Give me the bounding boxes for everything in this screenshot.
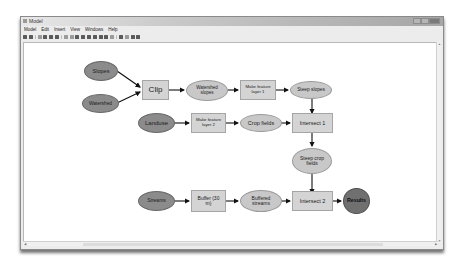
toolbar bbox=[23, 34, 142, 40]
node-label: Buffer (30 m) bbox=[197, 196, 220, 207]
model-canvas[interactable]: Slopes Watershed Clip Watershed slopes M… bbox=[23, 42, 438, 243]
node-label: Buffered streams bbox=[247, 196, 275, 207]
delete-icon[interactable] bbox=[55, 35, 59, 39]
node-label: Crop fields bbox=[248, 120, 274, 126]
add-data-icon[interactable] bbox=[75, 35, 79, 39]
menu-windows[interactable]: Windows bbox=[85, 27, 103, 33]
menu-edit[interactable]: Edit bbox=[41, 27, 49, 33]
redo-icon[interactable] bbox=[70, 35, 74, 39]
node-slopes[interactable]: Slopes bbox=[84, 61, 118, 81]
print-icon[interactable] bbox=[29, 35, 33, 39]
scroll-right-icon[interactable]: ▶ bbox=[435, 242, 437, 246]
node-label: Landuse bbox=[145, 120, 168, 127]
menu-view[interactable]: View bbox=[70, 27, 80, 33]
menu-bar: Model Edit Insert View Windows Help bbox=[21, 27, 123, 33]
toolbar-separator bbox=[116, 35, 117, 39]
scroll-left-icon[interactable]: ◀ bbox=[24, 242, 26, 246]
run-icon[interactable] bbox=[136, 35, 140, 39]
cut-icon[interactable] bbox=[38, 35, 42, 39]
pan-icon[interactable] bbox=[110, 35, 114, 39]
node-make-feature-layer-2[interactable]: Make feature layer 2 bbox=[191, 113, 226, 133]
save-icon[interactable] bbox=[23, 35, 27, 39]
vertical-scrollbar[interactable]: ▲ ▼ bbox=[436, 42, 441, 243]
app-icon bbox=[23, 19, 27, 23]
node-steep-slopes[interactable]: Steep slopes bbox=[290, 81, 332, 99]
node-label: Results bbox=[347, 198, 366, 204]
node-crop-fields[interactable]: Crop fields bbox=[240, 114, 282, 132]
select-icon[interactable] bbox=[119, 35, 123, 39]
node-label: Watershed bbox=[89, 101, 112, 106]
auto-layout-icon[interactable] bbox=[81, 35, 85, 39]
copy-icon[interactable] bbox=[43, 35, 47, 39]
validate-icon[interactable] bbox=[131, 35, 135, 39]
zoom-out-fixed-icon[interactable] bbox=[99, 35, 103, 39]
zoom-in-fixed-icon[interactable] bbox=[93, 35, 97, 39]
paste-icon[interactable] bbox=[49, 35, 53, 39]
node-label: Intersect 2 bbox=[300, 198, 326, 204]
node-label: Intersect 1 bbox=[300, 120, 326, 126]
menu-help[interactable]: Help bbox=[108, 27, 117, 33]
node-label: Streams bbox=[147, 198, 166, 204]
node-watershed-slopes[interactable]: Watershed slopes bbox=[186, 80, 228, 101]
node-watershed[interactable]: Watershed bbox=[82, 94, 119, 113]
connect-icon[interactable] bbox=[125, 35, 129, 39]
toolbar-separator bbox=[35, 35, 36, 39]
close-button[interactable] bbox=[429, 18, 440, 24]
node-intersect-1[interactable]: Intersect 1 bbox=[292, 113, 333, 133]
node-label: Make feature layer 1 bbox=[244, 85, 272, 94]
node-label: Steep slopes bbox=[297, 87, 325, 92]
node-label: Clip bbox=[149, 86, 163, 95]
node-results[interactable]: Results bbox=[343, 188, 370, 214]
zoom-icon[interactable] bbox=[104, 35, 108, 39]
maximize-button[interactable] bbox=[421, 18, 429, 24]
node-label: Make feature layer 2 bbox=[195, 118, 222, 127]
node-steep-crop-fields[interactable]: Steep crop fields bbox=[292, 148, 332, 174]
node-clip[interactable]: Clip bbox=[142, 80, 169, 100]
node-label: Slopes bbox=[93, 68, 110, 74]
scroll-up-icon[interactable]: ▲ bbox=[438, 42, 441, 46]
menu-model[interactable]: Model bbox=[24, 27, 36, 33]
horizontal-scroll-thumb[interactable] bbox=[83, 243, 383, 246]
window-controls bbox=[413, 18, 440, 24]
menu-insert[interactable]: Insert bbox=[54, 27, 65, 33]
scroll-down-icon[interactable]: ▼ bbox=[438, 239, 441, 243]
node-streams[interactable]: Streams bbox=[138, 191, 175, 211]
node-buffer[interactable]: Buffer (30 m) bbox=[191, 190, 226, 212]
node-make-feature-layer-1[interactable]: Make feature layer 1 bbox=[240, 80, 276, 100]
node-buffered-streams[interactable]: Buffered streams bbox=[240, 190, 282, 212]
node-label: Watershed slopes bbox=[194, 86, 220, 96]
undo-icon[interactable] bbox=[64, 35, 68, 39]
window-title: Model bbox=[29, 18, 43, 25]
full-extent-icon[interactable] bbox=[87, 35, 91, 39]
node-intersect-2[interactable]: Intersect 2 bbox=[292, 191, 333, 211]
model-window: Model Model Edit Insert View Windows Hel… bbox=[20, 16, 444, 250]
node-label: Steep crop fields bbox=[299, 156, 325, 167]
horizontal-scrollbar[interactable]: ◀ ▶ bbox=[23, 241, 438, 246]
node-landuse[interactable]: Landuse bbox=[138, 113, 175, 133]
minimize-button[interactable] bbox=[413, 18, 421, 24]
title-bar[interactable]: Model bbox=[21, 17, 443, 26]
toolbar-separator bbox=[61, 35, 62, 39]
